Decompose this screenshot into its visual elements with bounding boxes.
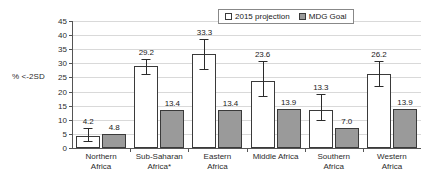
bar-value-label: 33.3: [197, 28, 212, 37]
y-axis-tick-label: 10: [58, 115, 67, 124]
error-bar-cap-bottom: [258, 96, 267, 97]
x-axis-category-label: Northern Africa: [86, 152, 117, 172]
gridline: [72, 35, 421, 36]
y-axis-tick-label: 0: [63, 144, 67, 153]
error-bar: [134, 59, 158, 75]
bar-value-label: 13.3: [313, 83, 328, 92]
bar-value-label: 13.4: [223, 99, 238, 108]
error-bar: [309, 94, 333, 121]
y-axis-tick-label: 45: [58, 17, 67, 26]
legend-entry: 2015 projection: [225, 12, 290, 21]
y-axis-tick-label: 30: [58, 59, 67, 68]
projection-swatch: [225, 13, 232, 20]
y-axis-tick-label: 40: [58, 31, 67, 40]
y-axis-title: % <-2SD: [12, 72, 45, 81]
y-axis-tick-label: 20: [58, 87, 67, 96]
x-axis-tick-mark: [130, 148, 131, 152]
error-bar-cap-bottom: [316, 120, 325, 121]
legend-label: MDG Goal: [309, 12, 347, 21]
error-bar: [76, 128, 100, 142]
error-bar-cap-bottom: [84, 141, 93, 142]
y-axis-tick-label: 5: [63, 129, 67, 138]
error-bar-cap-top: [258, 61, 267, 62]
error-bar-stem: [263, 61, 264, 98]
plot-area: 0510152025303540454.24.829.213.433.313.4…: [72, 21, 421, 148]
x-axis-category-label: Southern Africa: [318, 152, 350, 172]
bar-value-label: 26.2: [371, 50, 386, 59]
x-axis-category-label: Sub-Saharan Africa*: [136, 152, 183, 172]
error-bar: [192, 39, 216, 69]
bar-value-label: 7.0: [341, 117, 352, 126]
error-bar-stem: [321, 94, 322, 121]
x-axis-category-label: Middle Africa: [253, 152, 299, 162]
error-bar-stem: [88, 128, 89, 142]
error-bar-cap-bottom: [142, 74, 151, 75]
bar: [160, 110, 184, 148]
bar-value-label: 23.6: [255, 50, 270, 59]
bar: [335, 128, 359, 148]
error-bar: [251, 61, 275, 98]
error-bar-cap-top: [142, 59, 151, 60]
gridline: [72, 49, 421, 50]
legend-entry: MDG Goal: [299, 12, 347, 21]
error-bar-cap-bottom: [200, 69, 209, 70]
x-axis-tick-mark: [188, 148, 189, 152]
error-bar-cap-top: [316, 94, 325, 95]
bar: [393, 109, 417, 148]
error-bar-stem: [146, 59, 147, 75]
bar-value-label: 13.9: [397, 98, 412, 107]
y-axis-line: [72, 21, 73, 148]
legend-label: 2015 projection: [235, 12, 290, 21]
chart-legend: 2015 projectionMDG Goal: [218, 9, 354, 24]
error-bar-stem: [204, 39, 205, 69]
bar-value-label: 13.9: [281, 98, 296, 107]
bar-value-label: 13.4: [165, 99, 180, 108]
error-bar-cap-top: [84, 128, 93, 129]
bar: [277, 109, 301, 148]
x-axis-category-label: Western Africa: [377, 152, 407, 172]
x-axis-tick-mark: [247, 148, 248, 152]
bar-value-label: 4.2: [83, 117, 94, 126]
bar: [218, 110, 242, 148]
error-bar: [367, 61, 391, 88]
error-bar-cap-top: [374, 61, 383, 62]
bar-value-label: 29.2: [139, 48, 154, 57]
error-bar-cap-bottom: [374, 86, 383, 87]
y-axis-tick-label: 15: [58, 101, 67, 110]
goal-swatch: [299, 13, 306, 20]
bar-chart: % <-2SD 0510152025303540454.24.829.213.4…: [0, 0, 431, 191]
error-bar-stem: [379, 61, 380, 88]
x-axis-tick-mark: [363, 148, 364, 152]
bar: [134, 66, 158, 148]
x-axis-tick-mark: [305, 148, 306, 152]
error-bar-cap-top: [200, 39, 209, 40]
y-axis-tick-label: 25: [58, 73, 67, 82]
bar-value-label: 4.8: [109, 123, 120, 132]
y-axis-tick-label: 35: [58, 45, 67, 54]
x-axis-category-label: Eastern Africa: [204, 152, 232, 172]
bar: [102, 134, 126, 148]
